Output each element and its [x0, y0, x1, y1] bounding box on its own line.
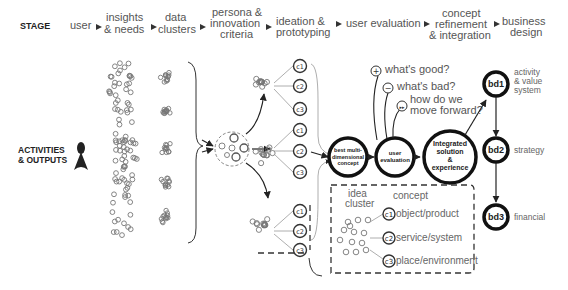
svg-text:what's good?: what's good?	[384, 63, 449, 75]
best-concept-node: best multi-dimensionalconcept	[329, 138, 367, 176]
plus-icon: +	[373, 67, 380, 76]
user-evaluation-node: userevaluation	[376, 138, 414, 176]
svg-text:c1: c1	[385, 211, 393, 219]
arrow-icon	[494, 21, 500, 27]
bd2-node: bd2 strategy	[484, 138, 545, 162]
stage-business-design: businessdesign	[502, 15, 546, 38]
process-diagram: STAGE user insights& needs dataclusters …	[0, 0, 568, 290]
stage-header: STAGE user insights& needs dataclusters …	[20, 6, 546, 41]
arrow-icon	[96, 24, 102, 30]
person-icon	[74, 142, 88, 170]
minus-icon: −	[385, 84, 392, 93]
svg-text:bd2: bd2	[488, 145, 504, 155]
svg-text:bd1: bd1	[488, 79, 504, 89]
activities-label: ACTIVITIES& OUTPUTS	[18, 145, 67, 165]
legend-c3: c3 place/environment	[383, 255, 478, 267]
svg-text:ideacluster: ideacluster	[345, 188, 375, 209]
svg-text:c3: c3	[296, 106, 304, 114]
bd1-node: bd1 activity& valuesystem	[484, 67, 543, 96]
legend-c2: c2 service/system	[383, 232, 462, 244]
arrow-icon	[200, 24, 206, 30]
stage-user-evaluation: user evaluation	[346, 17, 421, 29]
svg-text:service/system: service/system	[396, 232, 462, 243]
arrow-icon	[151, 24, 157, 30]
insights-dot-cloud	[107, 61, 140, 238]
svg-text:c1: c1	[296, 208, 304, 216]
svg-text:c2: c2	[296, 83, 304, 91]
eval-question-good: + what's good?	[371, 63, 449, 76]
stage-label: STAGE	[20, 21, 50, 31]
legend-c1: c1 object/product	[383, 208, 459, 220]
svg-text:object/product: object/product	[396, 208, 459, 219]
svg-text:c3: c3	[296, 169, 304, 177]
svg-text:concept: concept	[393, 190, 428, 201]
svg-text:bd3: bd3	[488, 212, 504, 222]
svg-text:what's bad?: what's bad?	[396, 80, 455, 92]
stage-insights: insights& needs	[104, 11, 145, 35]
svg-text:c1: c1	[296, 63, 304, 71]
data-clusters	[158, 70, 172, 224]
concept-nodes: c1c2c3c1c2c3c1c2c3	[274, 60, 307, 257]
brace	[188, 62, 203, 243]
stage-user: user	[70, 19, 92, 31]
stage-concept-refinement: conceptrefinement& integration	[429, 7, 491, 41]
stage-persona: persona &innovationcriteria	[210, 6, 263, 40]
svg-text:c2: c2	[385, 235, 393, 243]
arrow-icon	[336, 21, 342, 27]
fast-forward-icon: ▸▸	[399, 104, 405, 110]
svg-text:how do wemove forward?: how do wemove forward?	[410, 93, 483, 116]
integrated-solution-node: Integratedsolution&experience	[424, 131, 476, 183]
svg-text:ACTIVITIES& OUTPUTS: ACTIVITIES& OUTPUTS	[18, 145, 67, 165]
stage-ideation: ideation &prototyping	[276, 15, 330, 38]
svg-text:activity& valuesystem: activity& valuesystem	[514, 67, 543, 95]
svg-text:financial: financial	[514, 212, 545, 222]
svg-text:c2: c2	[296, 228, 304, 236]
svg-text:place/environment: place/environment	[396, 255, 478, 266]
svg-text:c1: c1	[296, 127, 304, 135]
eval-question-bad: − what's bad?	[383, 80, 455, 93]
arrow-icon	[424, 21, 430, 27]
stage-data-clusters: dataclusters	[158, 11, 196, 35]
svg-text:strategy: strategy	[514, 145, 545, 155]
legend-box: ideacluster concept c1 object/product c2…	[331, 185, 478, 273]
arrow-icon	[266, 24, 272, 30]
persona-circle	[215, 132, 249, 166]
eval-question-forward: ▸▸ how do wemove forward?	[397, 93, 483, 116]
svg-text:c2: c2	[296, 148, 304, 156]
bd3-node: bd3 financial	[484, 205, 545, 229]
svg-text:c3: c3	[385, 258, 393, 266]
